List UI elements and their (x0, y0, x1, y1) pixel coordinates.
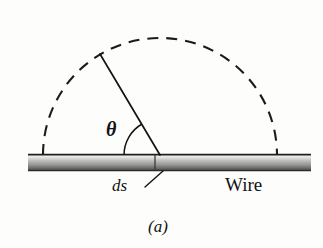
dashed-arc-path (43, 38, 277, 155)
angle-label-theta: θ (106, 119, 116, 139)
figure-canvas (0, 0, 323, 248)
figure-caption: (a) (148, 218, 168, 235)
wire-label: Wire (225, 175, 262, 194)
physics-figure: θ ds Wire (a) (0, 0, 323, 248)
ds-leader-line (145, 171, 163, 187)
line-element-label-ds: ds (112, 177, 127, 194)
angle-arc (124, 124, 142, 155)
wire-bar (28, 154, 311, 171)
